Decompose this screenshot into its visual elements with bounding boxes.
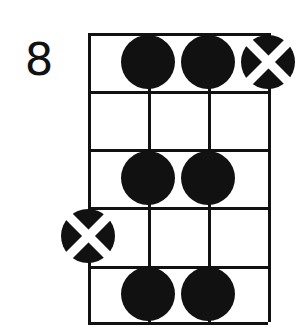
fret-line-4: [88, 266, 268, 269]
fret-position-label: 8: [8, 32, 70, 88]
fret-line-3: [88, 207, 268, 210]
string-line-2: [148, 33, 151, 322]
nut-line: [88, 33, 268, 36]
string-line-3: [208, 33, 211, 322]
fret-line-1: [88, 91, 268, 94]
chord-diagram: 8: [0, 0, 302, 334]
fret-line-2: [88, 149, 268, 152]
fret-line-5: [88, 322, 268, 325]
string-line-1: [88, 33, 91, 322]
string-line-4: [268, 33, 271, 322]
fretboard-grid: [88, 33, 268, 322]
